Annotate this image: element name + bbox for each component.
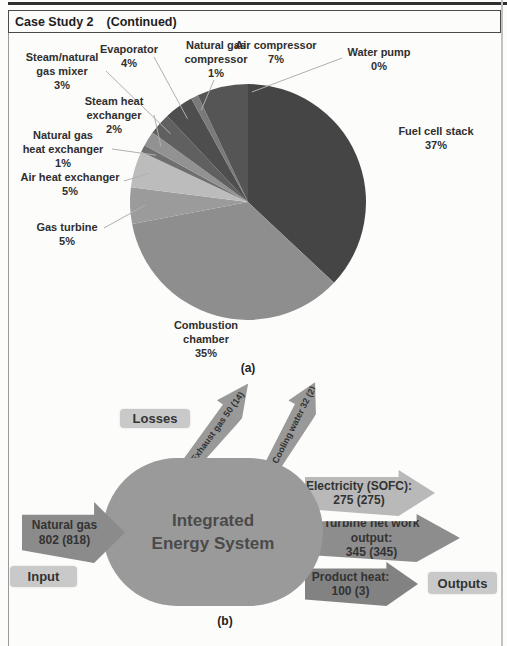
pie-label-line: Evaporator (92, 42, 166, 56)
caption-b: (b) (0, 614, 450, 628)
integrated-energy-system-box: Integrated Energy System (103, 458, 323, 606)
pie-label-line: 2% (72, 122, 156, 136)
pie-label-line: 0% (338, 59, 420, 73)
system-label-line1: Integrated (172, 509, 254, 532)
product-heat-arrow: Product heat: 100 (3) (305, 562, 418, 606)
scanned-figure-page: Case Study 2 (Continued) Fuel cell stack… (0, 0, 507, 646)
pie-label-line: 35% (160, 346, 252, 360)
pie-slice-air-compressor (198, 84, 248, 202)
pie-label-line: exchanger (72, 108, 156, 122)
outputs-badge: Outputs (428, 572, 497, 594)
pie-label-line: Combustion (160, 318, 252, 332)
cooling-water-label: Cooling water 32 (2) (270, 384, 318, 465)
pie-leader-air-heat-exchanger (124, 173, 149, 181)
turbine-output-arrow: Turbine net work output: 345 (345) (305, 514, 460, 562)
natural-gas-label-line2: 802 (818) (39, 533, 90, 548)
caption-a: (a) (0, 361, 496, 375)
pie-leader-natural-gas-compressor (201, 80, 214, 110)
page-left-border (8, 10, 9, 646)
pie-label-combustion-chamber: Combustionchamber35% (160, 318, 252, 360)
product-heat-label-line2: 100 (3) (331, 584, 369, 599)
header-continued: (Continued) (107, 15, 177, 29)
case-study-header: Case Study 2 (Continued) (8, 10, 501, 33)
system-label-line2: Energy System (152, 532, 275, 555)
pie-label-line: Fuel cell stack (390, 124, 482, 138)
pie-label-gas-turbine: Gas turbine5% (24, 220, 110, 248)
pie-slice-gas-turbine (130, 187, 248, 224)
turbine-label-line2: 345 (345) (346, 545, 397, 560)
exhaust-gas-label: Exhaust gas 50 (14) (188, 390, 245, 464)
pie-label-water-pump: Water pump0% (338, 45, 420, 73)
losses-badge: Losses (120, 409, 190, 428)
pie-slice-combustion-chamber (132, 202, 334, 320)
pie-label-line: Gas turbine (24, 220, 110, 234)
pie-label-line: 37% (390, 138, 482, 152)
pie-slice-natural-gas-compressor (191, 95, 248, 202)
pie-slice-fuel-cell-stack (248, 84, 366, 283)
pie-label-line: 1% (12, 156, 114, 170)
cooling-water-arrow: Cooling water 32 (2) (258, 375, 329, 474)
input-badge: Input (10, 566, 77, 587)
pie-label-line: 5% (14, 184, 126, 198)
pie-label-line: 5% (24, 234, 110, 248)
pie-label-air-compressor: Air compressor7% (230, 38, 322, 66)
pie-label-fuel-cell-stack: Fuel cell stack37% (390, 124, 482, 152)
electricity-label-line2: 275 (275) (333, 493, 384, 508)
pie-label-steam-heat-exchanger: Steam heatexchanger2% (72, 94, 156, 136)
pie-label-line: 3% (14, 78, 110, 92)
pie-leader-natural-gas-heat-exchanger (112, 149, 156, 155)
pie-slice-steam-natural-gas-mixer (153, 116, 249, 202)
pie-slice-air-heat-exchanger (131, 152, 248, 202)
product-heat-label-line1: Product heat: (312, 570, 389, 585)
pie-label-line: Steam heat (72, 94, 156, 108)
pie-label-line: 7% (230, 52, 322, 66)
pie-label-line: Air compressor (230, 38, 322, 52)
pie-slice-steam-heat-exchanger (145, 133, 248, 202)
pie-label-line: chamber (160, 332, 252, 346)
pie-slice-evaporator (167, 99, 248, 202)
page-right-border (501, 0, 503, 646)
header-title: Case Study 2 (15, 15, 94, 29)
pie-label-line: 1% (178, 66, 254, 80)
electricity-label-line1: Electricity (SOFC): (306, 479, 412, 494)
natural-gas-label-line1: Natural gas (32, 518, 97, 533)
pie-leader-gas-turbine (104, 205, 145, 228)
pie-label-line: Air heat exchanger (14, 170, 126, 184)
electricity-output-arrow: Electricity (SOFC): 275 (275) (305, 470, 435, 516)
pie-label-line: Water pump (338, 45, 420, 59)
pie-label-line: heat exchanger (12, 142, 114, 156)
page-top-rule (8, 2, 507, 5)
pie-label-air-heat-exchanger: Air heat exchanger5% (14, 170, 126, 198)
pie-label-line: 4% (92, 56, 166, 70)
pie-slice-natural-gas-heat-exchanger (141, 145, 248, 202)
turbine-label-line1: Turbine net work output: (305, 516, 438, 545)
pie-label-evaporator: Evaporator4% (92, 42, 166, 70)
